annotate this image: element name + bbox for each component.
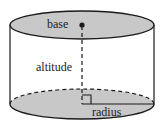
radius-label: radius xyxy=(92,105,122,119)
base-label: base xyxy=(47,17,68,31)
cylinder-diagram: base altitude radius xyxy=(0,0,164,129)
center-point xyxy=(79,22,84,27)
altitude-label: altitude xyxy=(36,60,72,74)
